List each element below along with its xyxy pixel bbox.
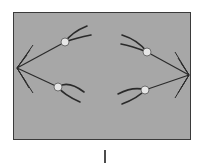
centromeres [54,38,151,94]
anaphase-diagram [0,0,200,163]
centromere-upper-left [61,38,69,46]
centromere-lower-right [141,86,149,94]
spindle-fibers [17,42,189,90]
chromosome-arms [58,26,147,104]
centromere-lower-left [54,83,62,91]
centromere-upper-right [143,48,151,56]
right-aster [175,52,189,98]
